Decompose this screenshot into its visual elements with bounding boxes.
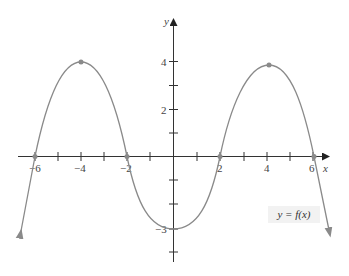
y-tick-label: 2 — [161, 104, 167, 116]
y-tick-label: 4 — [161, 56, 167, 68]
x-tick-label: 6 — [309, 162, 315, 174]
x-axis-label: x — [322, 162, 328, 174]
x-tick-label: −6 — [29, 162, 41, 174]
x-tick-label: −4 — [74, 162, 86, 174]
function-graph: −6 −4 −2 2 4 6 4 2 −3 y x — [0, 0, 349, 276]
y-tick-label: −3 — [155, 223, 167, 235]
y-axis-label: y — [163, 15, 169, 27]
function-label: y = f(x) — [268, 206, 320, 223]
x-tick-label: 4 — [264, 162, 270, 174]
